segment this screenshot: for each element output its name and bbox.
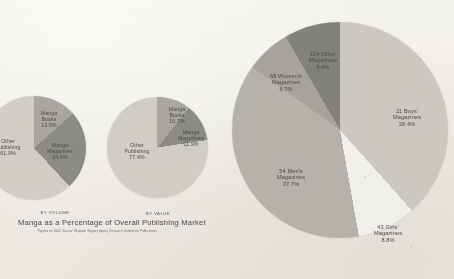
label-percent: 8.8% [358, 237, 418, 243]
chart-by-volume: Manga Books 13.5% Manga Magazines 24.6% … [0, 96, 86, 200]
scan-speck [364, 176, 366, 178]
pie-magazine-breakdown [232, 22, 448, 238]
scan-speck [248, 208, 249, 209]
chart-magazine-breakdown: 21 Boys' Magazines 38.4% 43 Girls' Magaz… [232, 22, 448, 238]
figure-title: Manga as a Percentage of Overall Publish… [18, 218, 206, 227]
scan-speck [410, 246, 412, 248]
chart-by-value: Manga Books 10.7% Manga Magazines 11.9% … [107, 97, 208, 198]
scan-speck [287, 36, 289, 38]
scan-speck [420, 58, 421, 59]
pie-by-value [107, 97, 208, 198]
caption-by-value: BY VALUE [128, 211, 188, 216]
figure-source: Figures for 2002. Source: Shuppan Geppo … [38, 229, 157, 233]
pie-by-volume [0, 96, 86, 200]
caption-by-volume: BY VOLUME [10, 210, 100, 215]
